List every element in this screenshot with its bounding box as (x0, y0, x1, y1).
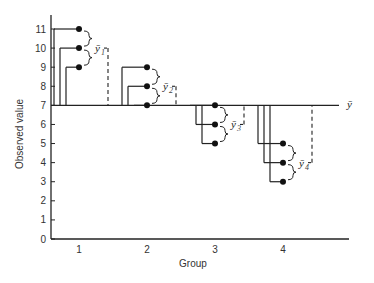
group-2: ȳ2 (122, 64, 176, 108)
y-tick-label: 10 (35, 43, 47, 54)
group-mean-label: ȳ (230, 118, 237, 130)
group-mean-label: ȳ (298, 157, 305, 169)
data-point (280, 179, 286, 185)
data-point (76, 45, 82, 51)
y-tick-label: 8 (40, 81, 46, 92)
brace (220, 126, 228, 141)
brace (152, 69, 160, 84)
data-point (76, 26, 82, 32)
brace (288, 165, 296, 180)
data-point (212, 121, 218, 127)
data-point (280, 141, 286, 147)
y-tick-label: 2 (40, 195, 46, 206)
data-point (76, 64, 82, 70)
data-point (144, 83, 150, 89)
grand-mean-label: ȳ (346, 98, 353, 110)
data-point (280, 160, 286, 166)
x-tick-label: 2 (144, 244, 150, 255)
group-3: ȳ3 (190, 102, 244, 146)
data-point (212, 102, 218, 108)
anova-deviation-chart: 012345678910111234 ȳȳ1ȳ2ȳ3ȳ4 Group Obser… (0, 0, 374, 283)
x-axis-label: Group (179, 258, 207, 269)
axes: 012345678910111234 (35, 15, 349, 255)
group-mean-label: ȳ (94, 42, 101, 54)
y-tick-label: 6 (40, 119, 46, 130)
plot-area: ȳȳ1ȳ2ȳ3ȳ4 (51, 26, 353, 185)
group-1: ȳ1 (54, 26, 108, 105)
group-mean-subscript: 3 (236, 124, 241, 133)
y-tick-label: 1 (40, 214, 46, 225)
y-tick-label: 4 (40, 157, 46, 168)
brace (288, 146, 296, 161)
group-mean-subscript: 1 (101, 48, 105, 57)
y-axis-label: Observed value (14, 99, 25, 169)
y-tick-label: 9 (40, 62, 46, 73)
brace (84, 50, 92, 65)
group-mean-subscript: 4 (305, 163, 309, 172)
brace (84, 31, 92, 46)
data-point (212, 141, 218, 147)
x-tick-label: 1 (76, 244, 82, 255)
group-4: ȳ4 (258, 105, 312, 184)
x-tick-label: 4 (280, 244, 286, 255)
data-point (144, 64, 150, 70)
group-mean-label: ȳ (162, 80, 169, 92)
data-point (144, 102, 150, 108)
brace (152, 88, 160, 103)
y-tick-label: 11 (36, 24, 47, 35)
y-tick-label: 7 (40, 100, 46, 111)
group-mean-subscript: 2 (169, 86, 173, 95)
y-tick-label: 0 (40, 234, 46, 245)
brace (220, 107, 228, 122)
y-tick-label: 5 (40, 138, 46, 149)
x-tick-label: 3 (212, 244, 218, 255)
y-tick-label: 3 (40, 176, 46, 187)
